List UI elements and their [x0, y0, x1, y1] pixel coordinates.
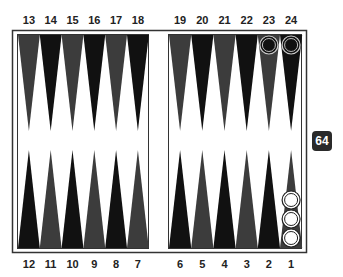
point-label: 8 — [106, 258, 126, 270]
checker-black[interactable] — [260, 36, 278, 54]
checker-white[interactable] — [282, 229, 300, 247]
point-label: 1 — [281, 258, 301, 270]
point-label: 10 — [63, 258, 83, 270]
point-label: 4 — [215, 258, 235, 270]
point-label: 23 — [259, 14, 279, 26]
point-label: 20 — [192, 14, 212, 26]
point-label: 12 — [19, 258, 39, 270]
doubling-cube[interactable]: 64 — [312, 131, 332, 151]
point-label: 18 — [128, 14, 148, 26]
point-label: 13 — [19, 14, 39, 26]
point-label: 5 — [192, 258, 212, 270]
point-label: 6 — [170, 258, 190, 270]
backgammon-board — [0, 0, 343, 277]
point-label: 3 — [237, 258, 257, 270]
point-label: 19 — [170, 14, 190, 26]
point-label: 16 — [84, 14, 104, 26]
point-label: 2 — [259, 258, 279, 270]
point-label: 24 — [281, 14, 301, 26]
point-label: 22 — [237, 14, 257, 26]
point-label: 11 — [41, 258, 61, 270]
point-label: 15 — [63, 14, 83, 26]
point-label: 17 — [106, 14, 126, 26]
checker-white[interactable] — [282, 210, 300, 228]
checker-white[interactable] — [282, 191, 300, 209]
checker-black[interactable] — [282, 36, 300, 54]
point-label: 14 — [41, 14, 61, 26]
point-label: 21 — [215, 14, 235, 26]
point-label: 9 — [84, 258, 104, 270]
point-label: 7 — [128, 258, 148, 270]
